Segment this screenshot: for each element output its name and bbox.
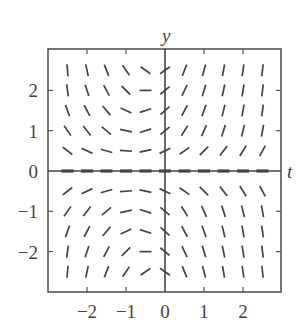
y-axis-label: y <box>160 25 171 46</box>
slope-segment <box>123 65 130 75</box>
slope-segment <box>140 209 151 213</box>
slope-segment <box>84 105 90 116</box>
slope-segment <box>202 206 207 217</box>
slope-segment <box>242 205 245 217</box>
slope-segment <box>242 266 244 278</box>
slope-segment <box>262 266 263 278</box>
slope-segment <box>140 190 152 192</box>
slope-segment <box>181 126 187 136</box>
slope-segment <box>220 146 227 155</box>
slope-segment <box>242 125 245 137</box>
slope-segment <box>202 226 206 237</box>
slope-segment <box>64 126 71 136</box>
slope-segment <box>200 147 208 155</box>
y-tick-label: 1 <box>29 121 39 142</box>
slope-segment <box>82 148 93 153</box>
slope-segment <box>103 227 111 236</box>
y-tick-label: −1 <box>18 201 38 222</box>
slope-segment <box>120 129 132 131</box>
slope-segment <box>202 246 206 257</box>
slope-segment <box>222 266 224 278</box>
slope-segment <box>182 266 186 277</box>
slope-segment <box>85 85 89 96</box>
y-tick-label: 0 <box>29 161 39 182</box>
slope-segment <box>262 246 263 258</box>
slope-segment <box>140 150 152 152</box>
slope-segment <box>242 105 244 117</box>
slope-segment <box>202 105 206 116</box>
slope-segment <box>84 226 90 237</box>
slope-segment <box>103 106 111 115</box>
slope-segment <box>104 65 108 76</box>
slope-segment <box>104 85 110 96</box>
slope-segment <box>222 125 226 136</box>
slope-segment <box>86 64 88 76</box>
slope-segment <box>104 266 108 277</box>
slope-segment <box>182 65 186 76</box>
slope-segment <box>120 210 132 212</box>
slope-segment <box>83 207 90 216</box>
y-tick-label: −2 <box>18 242 38 263</box>
slope-segment <box>141 67 151 74</box>
slope-segment <box>120 191 132 192</box>
slope-segment <box>102 207 111 215</box>
slope-segment <box>121 229 132 234</box>
slope-segment <box>86 266 88 278</box>
slope-segment <box>262 105 264 117</box>
slope-segment <box>242 84 244 96</box>
tick-labels: −2−1012210−1−2 <box>18 80 248 322</box>
slope-segment <box>181 206 187 216</box>
slope-segment <box>83 126 90 135</box>
slope-segment <box>202 125 207 136</box>
slope-segment <box>85 246 89 257</box>
x-tick-label: 0 <box>160 301 170 322</box>
slope-segment <box>65 226 69 237</box>
slope-segment <box>180 147 190 154</box>
slope-segment <box>242 64 244 76</box>
slope-segment <box>222 105 225 117</box>
slope-segment <box>182 226 188 237</box>
slope-segment <box>222 246 224 258</box>
slope-segment <box>262 84 263 96</box>
slope-segment <box>222 64 224 76</box>
slope-segment <box>200 187 208 195</box>
slope-segment <box>141 268 151 275</box>
x-tick-label: 1 <box>199 301 209 322</box>
slope-segment <box>260 186 266 197</box>
slope-segment <box>67 246 69 258</box>
slope-segment <box>140 109 151 113</box>
slope-segment <box>202 266 205 278</box>
slope-segment <box>262 226 264 238</box>
slope-segment <box>67 64 68 76</box>
y-tick-label: 2 <box>29 80 39 101</box>
slope-segment <box>140 230 151 234</box>
slope-segment <box>182 85 187 96</box>
slope-segment <box>65 105 69 116</box>
slope-segment <box>182 105 188 116</box>
slope-segment <box>102 127 111 135</box>
slope-segment <box>240 146 246 156</box>
slope-segment <box>122 247 130 255</box>
slope-segment <box>261 125 263 137</box>
slope-segment <box>262 64 263 76</box>
slope-segment <box>120 150 132 151</box>
slope-segment <box>101 189 113 192</box>
slope-segment <box>220 186 227 195</box>
slope-segment <box>222 85 224 97</box>
slope-segment <box>67 84 69 96</box>
slope-field-chart: −2−1012210−1−2 y t <box>0 0 308 332</box>
slope-segment <box>260 146 266 157</box>
slope-segment <box>202 85 206 96</box>
slope-segment <box>64 206 71 216</box>
slope-segment <box>104 246 110 257</box>
slope-segment <box>222 226 225 238</box>
slope-segment <box>202 64 205 76</box>
slope-segment <box>261 205 263 217</box>
slope-segment <box>67 266 68 278</box>
slope-segment <box>222 206 226 217</box>
slope-segment <box>182 246 187 257</box>
slope-segment <box>242 246 244 258</box>
slope-segment <box>101 149 113 152</box>
slope-segment <box>123 267 130 277</box>
slope-segment <box>180 188 190 195</box>
